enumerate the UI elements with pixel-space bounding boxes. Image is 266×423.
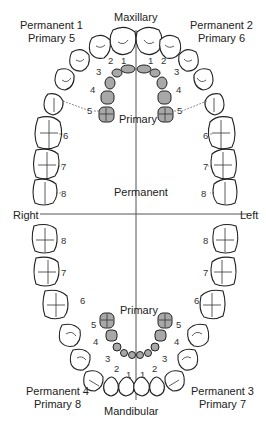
- maxillary-label: Maxillary: [114, 11, 157, 24]
- svg-text:8: 8: [203, 235, 208, 246]
- mandibular-label: Mandibular: [104, 405, 158, 418]
- svg-text:6: 6: [203, 130, 208, 141]
- upper-tooth-numbers: 1 1 2 2 3 3 4 4 5 5 6 6 7 7 8 8: [56, 55, 214, 199]
- svg-text:2: 2: [152, 363, 157, 374]
- svg-text:4: 4: [90, 84, 95, 95]
- svg-text:1: 1: [121, 55, 126, 66]
- svg-text:5: 5: [176, 319, 181, 330]
- svg-text:8: 8: [201, 188, 206, 199]
- svg-text:8: 8: [61, 235, 66, 246]
- svg-text:8: 8: [61, 188, 66, 199]
- quadrant-permanent: Permanent 2: [190, 19, 253, 32]
- svg-text:2: 2: [108, 55, 113, 66]
- svg-text:4: 4: [176, 84, 181, 95]
- svg-text:3: 3: [96, 66, 101, 77]
- quadrant-permanent: Permanent 4: [26, 385, 89, 398]
- quadrant-upper-left-label: Permanent 2 Primary 6: [190, 19, 253, 45]
- svg-text:3: 3: [105, 353, 110, 364]
- svg-text:1: 1: [140, 369, 145, 380]
- quadrant-permanent: Permanent 1: [20, 19, 83, 32]
- svg-text:2: 2: [161, 55, 166, 66]
- svg-text:7: 7: [61, 267, 66, 278]
- svg-text:2: 2: [114, 363, 119, 374]
- svg-text:4: 4: [93, 336, 98, 347]
- dental-arch-diagram: 1 1 2 2 3 3 4 4 5 5 6 6 7 7 8 8 8 8 7 7 …: [0, 0, 266, 423]
- quadrant-lower-right-label: Permanent 4 Primary 8: [26, 385, 89, 411]
- permanent-label: Permanent: [114, 186, 168, 199]
- svg-text:1: 1: [126, 369, 131, 380]
- svg-text:5: 5: [177, 105, 182, 116]
- primary-upper-label: Primary: [119, 113, 157, 126]
- right-side-label: Right: [13, 209, 39, 222]
- quadrant-primary: Primary 7: [191, 398, 254, 411]
- svg-text:3: 3: [162, 353, 167, 364]
- svg-text:3: 3: [174, 66, 179, 77]
- svg-text:6: 6: [194, 295, 199, 306]
- quadrant-primary: Primary 8: [26, 398, 89, 411]
- svg-text:4: 4: [174, 336, 179, 347]
- svg-text:7: 7: [203, 161, 208, 172]
- quadrant-lower-left-label: Permanent 3 Primary 7: [191, 385, 254, 411]
- svg-text:5: 5: [91, 319, 96, 330]
- svg-text:6: 6: [63, 130, 68, 141]
- primary-lower-label: Primary: [120, 304, 158, 317]
- svg-text:6: 6: [80, 295, 85, 306]
- quadrant-primary: Primary 6: [190, 32, 253, 45]
- quadrant-primary: Primary 5: [20, 32, 83, 45]
- left-side-label: Left: [240, 209, 258, 222]
- svg-text:7: 7: [61, 161, 66, 172]
- svg-text:7: 7: [203, 267, 208, 278]
- quadrant-permanent: Permanent 3: [191, 385, 254, 398]
- quadrant-upper-right-label: Permanent 1 Primary 5: [20, 19, 83, 45]
- svg-text:1: 1: [148, 55, 153, 66]
